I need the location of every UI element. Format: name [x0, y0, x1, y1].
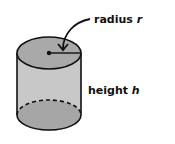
cylinder-diagram: radius r height h: [0, 0, 175, 144]
height-variable: h: [132, 84, 140, 97]
height-label: height h: [88, 84, 140, 97]
radius-label: radius r: [94, 13, 143, 26]
height-label-text: height: [88, 84, 132, 97]
radius-label-text: radius: [94, 13, 137, 26]
center-point: [47, 51, 51, 55]
radius-variable: r: [137, 13, 143, 26]
